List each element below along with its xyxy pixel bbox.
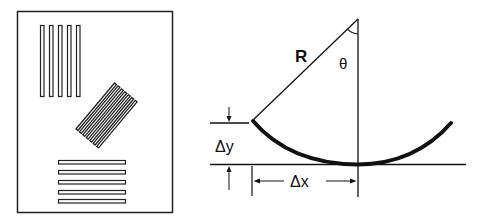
theta-label: θ: [339, 55, 347, 72]
tilted-bar-group: [76, 83, 137, 148]
dx-left-arrowhead-icon: [254, 179, 261, 184]
radius-label: R: [295, 47, 307, 66]
horizontal-bar: [59, 181, 126, 185]
vertical-bar: [68, 26, 72, 97]
vertical-bar: [77, 26, 81, 97]
vertical-bar: [41, 26, 45, 97]
horizontal-bar: [59, 171, 126, 175]
dy-top-arrowhead-icon: [227, 116, 232, 122]
vertical-bar: [59, 26, 63, 97]
delta-x-label: Δx: [290, 173, 309, 190]
curvature-geometry: [210, 19, 466, 197]
bent-curve: [253, 121, 451, 165]
sheet-panel: [18, 12, 173, 213]
dx-right-arrowhead-icon: [350, 179, 357, 184]
vertical-bar: [50, 26, 54, 97]
delta-y-label: Δy: [215, 138, 234, 155]
horizontal-bar: [59, 200, 126, 204]
vertical-bar-group: [41, 26, 81, 97]
horizontal-bar: [59, 191, 126, 195]
horizontal-bar: [59, 161, 126, 165]
horizontal-bar-group: [59, 161, 126, 204]
theta-arc: [348, 29, 359, 34]
dy-bottom-arrowhead-icon: [227, 166, 232, 172]
diagram-canvas: R θ Δy Δx: [0, 0, 484, 222]
